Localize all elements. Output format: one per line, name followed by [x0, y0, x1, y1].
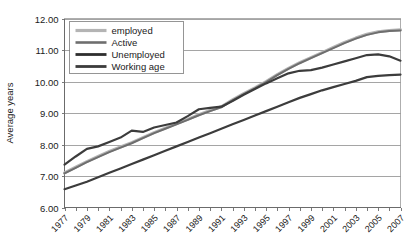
x-tick-label: 2003: [340, 213, 361, 234]
legend-label-employed: employed: [112, 25, 153, 36]
y-tick-label: 6.00: [40, 203, 59, 214]
y-axis-tick-group: 6.007.008.009.0010.0011.0012.00: [35, 14, 65, 214]
series-line-working-age: [65, 75, 401, 190]
x-tick-label: 1991: [206, 213, 227, 234]
legend-label-working-age: Working age: [112, 61, 165, 72]
y-axis-title: Average years: [4, 82, 15, 143]
legend-label-active: Active: [112, 37, 138, 48]
y-tick-label: 8.00: [40, 140, 59, 151]
chart-legend: employedActiveUnemployedWorking age: [70, 22, 184, 74]
chart-container: Average years 6.007.008.009.0010.0011.00…: [0, 0, 412, 251]
x-tick-label: 1997: [273, 213, 294, 234]
y-tick-label: 12.00: [35, 14, 59, 25]
y-tick-label: 11.00: [35, 45, 58, 56]
x-tick-label: 1979: [72, 213, 93, 234]
x-tick-label: 1989: [184, 213, 205, 234]
y-tick-label: 7.00: [40, 171, 59, 182]
x-tick-label: 2007: [385, 213, 406, 234]
x-tick-label: 1995: [251, 213, 272, 234]
x-tick-label: 1981: [94, 213, 115, 234]
x-tick-label: 1983: [116, 213, 137, 234]
x-tick-label: 1985: [139, 213, 160, 234]
legend-label-unemployed: Unemployed: [112, 49, 165, 60]
line-chart: Average years 6.007.008.009.0010.0011.00…: [0, 0, 412, 251]
y-tick-label: 9.00: [40, 108, 59, 119]
x-tick-label: 1977: [49, 213, 70, 234]
x-tick-label: 1999: [296, 213, 317, 234]
y-tick-label: 10.00: [35, 77, 59, 88]
x-tick-label: 2005: [363, 213, 384, 234]
x-tick-label: 1987: [161, 213, 182, 234]
x-tick-label: 2001: [318, 213, 339, 234]
x-tick-label: 1993: [228, 213, 249, 234]
x-axis-tick-group: 1977197919811983198519871989199119931995…: [49, 208, 406, 235]
